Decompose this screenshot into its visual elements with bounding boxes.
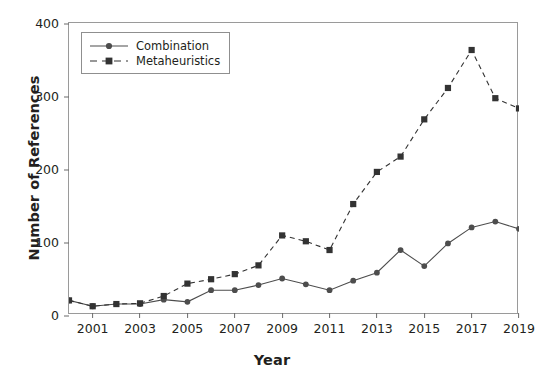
data-point: [469, 47, 475, 53]
x-tick-mark: [329, 313, 330, 318]
x-tick-label: 2003: [124, 321, 156, 336]
y-tick-mark: [64, 315, 69, 316]
y-tick-300: 300: [35, 89, 69, 104]
plot-area: 0100200300400 20012003200520072009201120…: [68, 22, 518, 314]
x-tick-2007: 2007: [219, 313, 251, 336]
x-tick-2019: 2019: [503, 313, 535, 336]
x-tick-mark: [424, 313, 425, 318]
data-point: [90, 303, 96, 309]
chart-figure: Number of References 0100200300400 20012…: [0, 0, 544, 379]
data-point: [161, 293, 167, 299]
data-point: [398, 247, 404, 253]
data-point: [374, 169, 380, 175]
x-tick-2017: 2017: [456, 313, 488, 336]
x-tick-label: 2011: [314, 321, 346, 336]
x-tick-label: 2005: [172, 321, 204, 336]
data-point: [397, 153, 403, 159]
x-tick-mark: [234, 313, 235, 318]
y-tick-mark: [64, 242, 69, 243]
chart-legend: Combination Metaheuristics: [81, 32, 230, 74]
data-point: [255, 262, 261, 268]
data-point: [208, 276, 214, 282]
x-axis-title: Year: [0, 352, 544, 368]
data-point: [303, 281, 309, 287]
series-combination: [69, 219, 519, 309]
data-point: [279, 232, 285, 238]
x-tick-mark: [282, 313, 283, 318]
y-tick-0: 0: [51, 308, 69, 323]
data-point: [445, 85, 451, 91]
y-tick-mark: [64, 23, 69, 24]
x-tick-2001: 2001: [77, 313, 109, 336]
x-tick-2003: 2003: [124, 313, 156, 336]
legend-key-combination-icon: [88, 40, 130, 52]
data-point: [492, 219, 498, 225]
data-point: [303, 238, 309, 244]
data-point: [232, 287, 238, 293]
x-tick-mark: [519, 313, 520, 318]
x-tick-2015: 2015: [408, 313, 440, 336]
series-line: [69, 50, 519, 306]
data-point: [516, 226, 519, 232]
data-point: [69, 297, 72, 303]
data-point: [469, 225, 475, 231]
y-tick-label: 200: [35, 162, 64, 177]
data-point: [137, 300, 143, 306]
y-tick-mark: [64, 169, 69, 170]
data-point: [421, 263, 427, 269]
x-tick-mark: [140, 313, 141, 318]
x-tick-label: 2007: [219, 321, 251, 336]
y-tick-label: 400: [35, 16, 64, 31]
data-point: [184, 281, 190, 287]
x-tick-label: 2017: [456, 321, 488, 336]
series-line: [69, 222, 519, 307]
data-point: [327, 287, 333, 293]
x-tick-mark: [92, 313, 93, 318]
data-point: [516, 105, 519, 111]
data-point: [421, 116, 427, 122]
x-tick-label: 2019: [503, 321, 535, 336]
x-tick-mark: [471, 313, 472, 318]
x-tick-2005: 2005: [172, 313, 204, 336]
y-tick-100: 100: [35, 235, 69, 250]
data-point: [279, 276, 285, 282]
x-tick-mark: [376, 313, 377, 318]
data-point: [350, 201, 356, 207]
y-tick-200: 200: [35, 162, 69, 177]
data-point: [256, 282, 262, 288]
x-tick-mark: [187, 313, 188, 318]
x-tick-2011: 2011: [314, 313, 346, 336]
x-tick-2013: 2013: [361, 313, 393, 336]
data-point: [185, 299, 191, 305]
x-tick-2009: 2009: [266, 313, 298, 336]
legend-label-combination: Combination: [136, 39, 209, 53]
data-point: [326, 247, 332, 253]
y-tick-mark: [64, 96, 69, 97]
x-tick-label: 2001: [77, 321, 109, 336]
y-tick-label: 300: [35, 89, 64, 104]
y-tick-label: 0: [51, 308, 64, 323]
data-point: [208, 287, 214, 293]
y-tick-400: 400: [35, 16, 69, 31]
data-point: [113, 301, 119, 307]
data-point: [445, 241, 451, 247]
data-point: [350, 278, 356, 284]
legend-item-combination: Combination: [88, 38, 220, 53]
y-tick-label: 100: [35, 235, 64, 250]
legend-key-metaheuristics-icon: [88, 55, 130, 67]
data-point: [374, 270, 380, 276]
legend-label-metaheuristics: Metaheuristics: [136, 54, 220, 68]
legend-item-metaheuristics: Metaheuristics: [88, 53, 220, 68]
data-point: [492, 95, 498, 101]
x-tick-label: 2009: [266, 321, 298, 336]
series-metaheuristics: [69, 47, 519, 309]
data-point: [232, 271, 238, 277]
x-tick-label: 2015: [408, 321, 440, 336]
x-tick-label: 2013: [361, 321, 393, 336]
